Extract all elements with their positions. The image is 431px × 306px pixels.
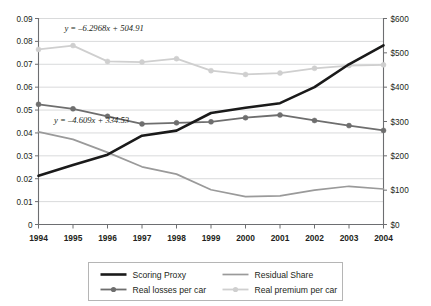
data-point-marker bbox=[36, 47, 41, 52]
data-point-marker bbox=[105, 59, 110, 64]
y-axis-right-tick-label: $100 bbox=[391, 186, 410, 195]
data-point-marker bbox=[209, 119, 214, 124]
chart-legend: Scoring ProxyResidual ShareReal losses p… bbox=[89, 263, 343, 301]
y-axis-left-tick-label: 0.04 bbox=[17, 129, 33, 138]
x-axis-tick-label: 1997 bbox=[133, 233, 152, 243]
y-axis-right-tick-label: $600 bbox=[391, 15, 410, 24]
trendline-equation-label: y = –4.609x + 334.53 bbox=[53, 115, 129, 125]
data-point-marker bbox=[278, 112, 283, 117]
y-axis-right-tick-label: $300 bbox=[391, 118, 410, 127]
x-axis-tick-label: 2004 bbox=[374, 233, 393, 243]
y-axis-right-tick-label: $500 bbox=[391, 49, 410, 58]
trendline-equation-label: y = –6.2968x + 504.91 bbox=[63, 23, 143, 33]
data-point-marker bbox=[209, 68, 214, 73]
x-axis-tick-label: 1995 bbox=[64, 233, 83, 243]
y-axis-left-tick-label: 0.08 bbox=[17, 37, 33, 46]
line-chart: 00.010.020.030.040.050.060.070.080.09 $0… bbox=[0, 0, 431, 306]
chart-container: 00.010.020.030.040.050.060.070.080.09 $0… bbox=[0, 0, 431, 306]
data-point-marker bbox=[243, 72, 248, 77]
data-point-marker bbox=[174, 56, 179, 61]
legend-label: Residual Share bbox=[255, 270, 314, 280]
y-axis-left-tick-label: 0.01 bbox=[17, 198, 33, 207]
data-point-marker bbox=[36, 102, 41, 107]
y-axis-right-tick-label: $0 bbox=[391, 221, 401, 230]
x-axis-tick-label: 2000 bbox=[236, 233, 255, 243]
data-point-marker bbox=[71, 43, 76, 48]
data-point-marker bbox=[278, 71, 283, 76]
x-axis-tick-label: 1999 bbox=[202, 233, 221, 243]
y-axis-left-tick-label: 0.06 bbox=[17, 83, 33, 92]
y-axis-right-tick-label: $200 bbox=[391, 152, 410, 161]
data-point-marker bbox=[347, 123, 352, 128]
y-axis-left-tick-label: 0.02 bbox=[17, 175, 33, 184]
y-axis-left-tick-label: 0 bbox=[28, 221, 33, 230]
legend-swatch-marker bbox=[233, 287, 238, 292]
x-axis-tick-label: 2001 bbox=[271, 233, 290, 243]
y-axis-left-tick-label: 0.07 bbox=[17, 60, 33, 69]
x-axis-tick-label: 1998 bbox=[167, 233, 186, 243]
data-point-marker bbox=[312, 66, 317, 71]
y-axis-right-tick-label: $400 bbox=[391, 83, 410, 92]
data-point-marker bbox=[381, 62, 386, 67]
y-axis-left-tick-label: 0.03 bbox=[17, 152, 33, 161]
y-axis-left-tick-label: 0.05 bbox=[17, 106, 33, 115]
x-axis-tick-label: 2003 bbox=[340, 233, 359, 243]
data-point-marker bbox=[243, 115, 248, 120]
data-point-marker bbox=[71, 106, 76, 111]
y-axis-left-tick-label: 0.09 bbox=[17, 15, 33, 24]
legend-label: Real losses per car bbox=[133, 285, 207, 295]
legend-swatch-marker bbox=[111, 287, 116, 292]
data-point-marker bbox=[140, 121, 145, 126]
x-axis-tick-label: 1994 bbox=[29, 233, 48, 243]
x-axis-tick-label: 1996 bbox=[98, 233, 117, 243]
data-point-marker bbox=[174, 120, 179, 125]
legend-label: Real premium per car bbox=[255, 285, 338, 295]
data-point-marker bbox=[381, 128, 386, 133]
data-point-marker bbox=[312, 118, 317, 123]
legend-label: Scoring Proxy bbox=[133, 270, 187, 280]
legend-box bbox=[89, 263, 343, 301]
data-point-marker bbox=[140, 60, 145, 65]
x-axis-tick-label: 2002 bbox=[305, 233, 324, 243]
